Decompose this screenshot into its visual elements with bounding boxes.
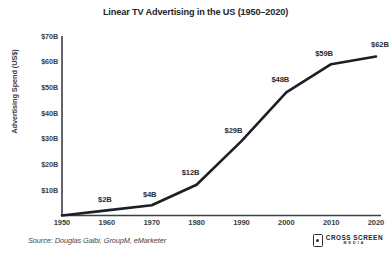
data-point-label: $4B: [127, 190, 173, 199]
data-point-label: $48B: [257, 75, 303, 84]
data-point-label: $2B: [82, 195, 128, 204]
data-point-label: $62B: [357, 40, 391, 49]
data-point-labels: $2B$4B$12B$29B$48B$59B$62B: [0, 0, 391, 265]
chart-figure: Linear TV Advertising in the US (1950–20…: [0, 0, 391, 265]
data-point-label: $12B: [168, 168, 214, 177]
brand-subtitle: MEDIA: [326, 242, 383, 246]
data-point-label: $59B: [301, 49, 347, 58]
data-point-label: $29B: [210, 126, 256, 135]
screen-icon: [313, 234, 323, 247]
brand-logo: CROSS SCREEN MEDIA: [313, 234, 383, 247]
brand-text: CROSS SCREEN MEDIA: [326, 235, 383, 246]
source-note: Source: Douglas Galbi, GroupM, eMarketer: [28, 236, 166, 245]
